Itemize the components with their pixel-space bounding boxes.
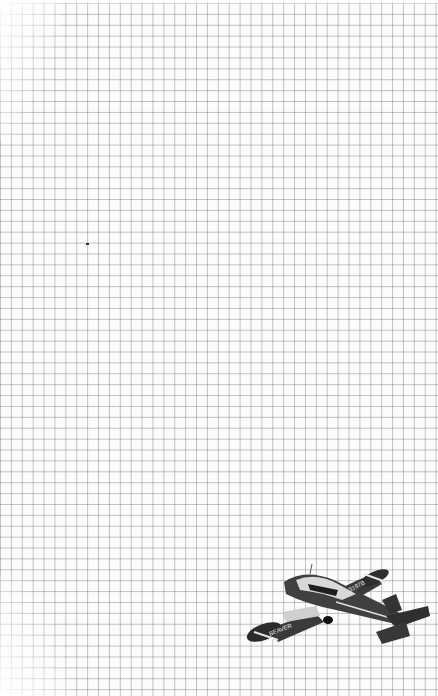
paper-corner-fade-top-left	[0, 0, 60, 140]
paper-top-edge	[0, 0, 438, 6]
paper-corner-fade-bottom-left	[0, 576, 70, 696]
ink-speck	[86, 243, 89, 245]
airplane-icon: BEAVER 3197B	[246, 560, 430, 652]
